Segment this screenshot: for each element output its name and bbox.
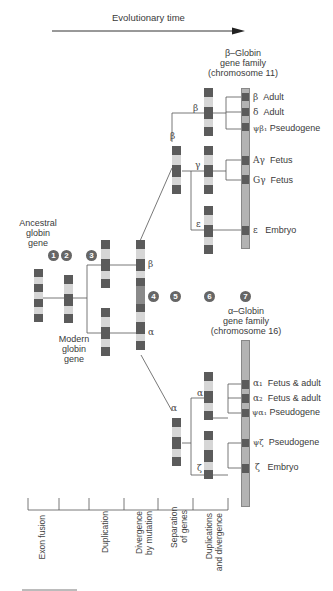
zeta-gene bbox=[204, 431, 213, 479]
separated-beta-gene bbox=[172, 146, 181, 194]
delta-gene-label: δ Adult bbox=[253, 107, 284, 117]
label-zeta: ζ bbox=[197, 463, 202, 473]
label-alpha-upper: α bbox=[197, 388, 203, 398]
g-gamma-gene-label: Gγ Fetus bbox=[253, 175, 293, 185]
stage-duplication: Duplication bbox=[100, 511, 110, 561]
label-beta-sub: β bbox=[170, 131, 175, 141]
psi-beta1-gene-label: ψβ₁ Pseudogene bbox=[253, 123, 320, 133]
alpha-duplicate-gene bbox=[204, 372, 213, 420]
epsilon-gene-label: ε Embryo bbox=[253, 225, 296, 235]
psi-zeta-gene-label: ψζ Pseudogene bbox=[253, 437, 319, 447]
step-badge-7: 7 bbox=[240, 291, 251, 302]
stage-divergence: Divergence by mutation bbox=[134, 511, 154, 561]
label-beta-main: β bbox=[148, 259, 153, 269]
epsilon-gene bbox=[204, 206, 213, 254]
gamma-gene bbox=[204, 146, 213, 194]
ancestral-label: Ancestral globin gene bbox=[18, 218, 58, 248]
alpha2-gene-label: α₂ Fetus & adult bbox=[253, 393, 321, 403]
psi-alpha1-gene-label: ψα₁ Pseudogene bbox=[252, 407, 320, 417]
stage-separation: Separation of genes bbox=[169, 510, 189, 548]
ancestral-gene bbox=[34, 269, 43, 322]
zeta-gene-label: ζ Embryo bbox=[255, 462, 298, 472]
connector-lines bbox=[0, 0, 333, 591]
step-badge-1: 1 bbox=[48, 250, 59, 261]
label-alpha-sub: α bbox=[171, 403, 177, 413]
alpha1-gene-label: α₁ Fetus & adult bbox=[253, 378, 321, 388]
alpha-family-title: α–Globin gene family (chromosome 16) bbox=[208, 306, 284, 336]
step-badge-4: 4 bbox=[148, 291, 159, 302]
stage-exon-fusion: Exon fusion bbox=[37, 515, 47, 565]
diverged-gene bbox=[136, 240, 145, 350]
modern-gene bbox=[64, 275, 73, 323]
duplicated-gene-upper bbox=[101, 240, 110, 288]
modern-label: Modern globin gene bbox=[54, 334, 94, 364]
duplicated-gene-lower bbox=[101, 308, 110, 356]
label-alpha-main: α bbox=[148, 327, 154, 337]
beta-duplicate-gene bbox=[204, 88, 213, 136]
separated-alpha-gene bbox=[172, 418, 181, 466]
label-epsilon: ε bbox=[196, 219, 201, 229]
axis-title: Evolutionary time bbox=[112, 12, 185, 23]
label-beta-upper: β bbox=[193, 103, 198, 113]
beta-family-title: β–Globin gene family (chromosome 11) bbox=[205, 48, 281, 78]
step-badge-5: 5 bbox=[170, 291, 181, 302]
a-gamma-gene-label: Aγ Fetus bbox=[253, 155, 292, 165]
stage-duplications-divergence: Duplications and divergence bbox=[204, 513, 224, 577]
chromosome-16 bbox=[241, 340, 250, 507]
step-badge-6: 6 bbox=[204, 291, 215, 302]
beta-gene-label: β Adult bbox=[253, 92, 284, 102]
chromosome-11 bbox=[241, 88, 250, 249]
step-badge-3: 3 bbox=[86, 250, 97, 261]
label-gamma: γ bbox=[195, 160, 200, 170]
step-badge-2: 2 bbox=[61, 250, 72, 261]
